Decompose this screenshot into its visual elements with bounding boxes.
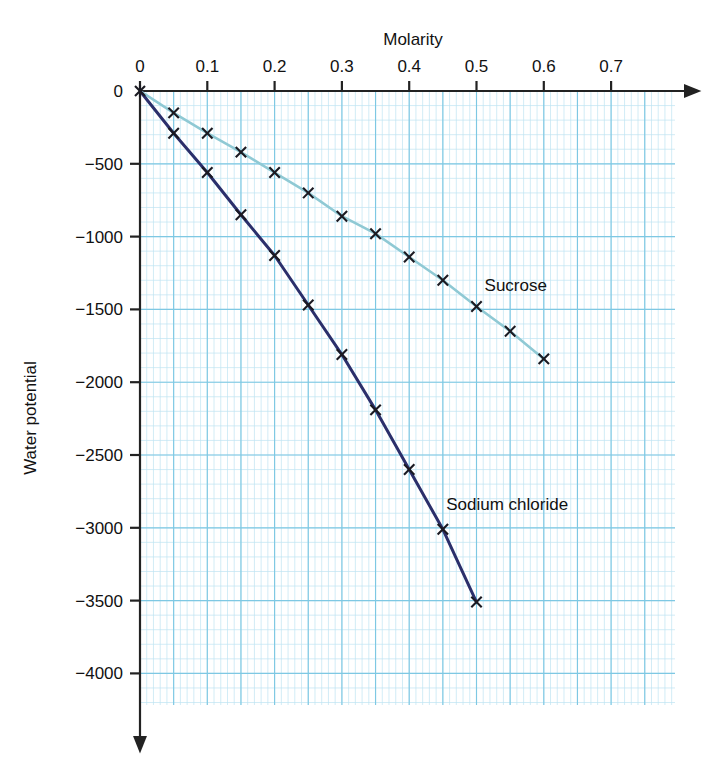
y-tick-label: −3000	[75, 519, 123, 538]
y-tick-label: −4000	[75, 664, 123, 683]
x-tick-label: 0.6	[532, 57, 556, 76]
x-tick-label: 0.2	[263, 57, 287, 76]
x-axis-title: Molarity	[383, 30, 443, 49]
chart-canvas: 00.10.20.30.40.50.60.7 0−500−1000−1500−2…	[0, 0, 708, 774]
y-axis-ticks: 0−500−1000−1500−2000−2500−3000−3500−4000	[75, 82, 140, 683]
y-tick-label: −1000	[75, 228, 123, 247]
y-tick-label: −2500	[75, 446, 123, 465]
x-tick-label: 0.5	[465, 57, 489, 76]
grid-minor	[140, 91, 675, 705]
x-tick-label: 0.1	[195, 57, 219, 76]
grid-major	[140, 91, 675, 705]
y-tick-label: −1500	[75, 300, 123, 319]
data-series-layer	[140, 91, 549, 607]
y-tick-label: 0	[114, 82, 123, 101]
series-sucrose	[140, 91, 549, 364]
y-tick-label: −2000	[75, 373, 123, 392]
series-annotations: SucroseSodium chloride	[446, 276, 568, 513]
y-tick-label: −500	[85, 155, 123, 174]
x-tick-label: 0.7	[599, 57, 623, 76]
x-axis-ticks: 00.10.20.30.40.50.60.7	[135, 57, 623, 91]
x-tick-label: 0	[135, 57, 144, 76]
series-sodium-chloride	[140, 91, 482, 607]
x-tick-label: 0.3	[330, 57, 354, 76]
y-tick-label: −3500	[75, 592, 123, 611]
series-label-sodium-chloride: Sodium chloride	[446, 495, 568, 514]
water-potential-chart: 00.10.20.30.40.50.60.7 0−500−1000−1500−2…	[0, 0, 708, 774]
x-tick-label: 0.4	[397, 57, 421, 76]
y-axis-title: Water potential	[21, 361, 40, 475]
series-label-sucrose: Sucrose	[485, 276, 547, 295]
